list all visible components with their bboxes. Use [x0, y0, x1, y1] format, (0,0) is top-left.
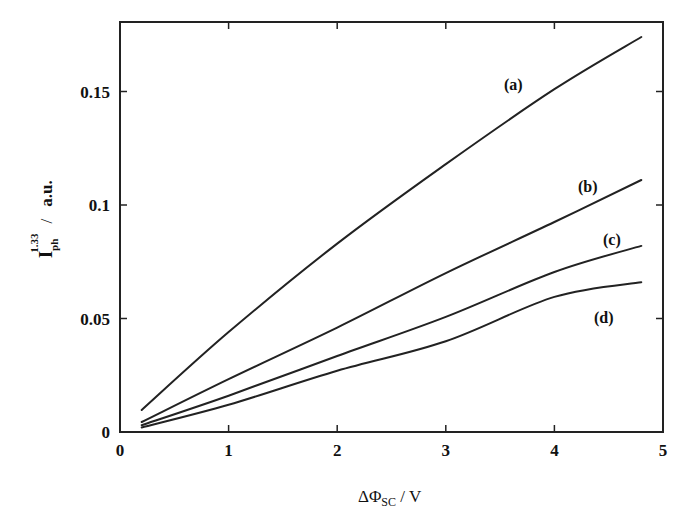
x-axis-title-main: ΔΦ: [358, 487, 381, 506]
y-tick-label: 0.1: [89, 196, 110, 215]
y-axis-title: Iph1.33/a.u.: [28, 180, 60, 258]
curve-b: [142, 180, 642, 422]
y-axis-title-superscript: 1.33: [28, 233, 40, 253]
x-tick-label: 4: [550, 441, 559, 460]
x-tick-label: 2: [333, 441, 342, 460]
y-axis-title-subscript: ph: [48, 239, 60, 251]
series-label-d: (d): [594, 309, 614, 327]
x-tick-label: 3: [442, 441, 451, 460]
curve-d: [142, 282, 642, 427]
series-label-b: (b): [578, 178, 598, 196]
curve-a: [142, 37, 642, 410]
y-tick-label: 0: [102, 423, 111, 442]
x-axis-title-subscript: SC: [381, 495, 396, 509]
y-tick-label: 0.15: [80, 83, 110, 102]
x-tick-label: 0: [116, 441, 125, 460]
y-axis-title-unit: a.u.: [37, 180, 56, 206]
chart: 012345 00.050.10.15 (a) (b) (c) (d) ΔΦSC…: [0, 0, 685, 524]
y-axis-title-slash: /: [37, 218, 56, 223]
y-axis-title-text: Iph1.33/a.u.: [28, 180, 60, 258]
y-tick-label: 0.05: [80, 310, 110, 329]
x-axis-title: ΔΦSC / V: [358, 487, 422, 509]
series-curves: [142, 37, 642, 428]
x-tick-label: 5: [659, 441, 668, 460]
series-label-c: (c): [603, 231, 621, 249]
x-axis-tick-labels: 012345: [116, 441, 668, 460]
x-axis-title-unit: / V: [396, 487, 422, 506]
axis-ticks: [120, 22, 663, 432]
series-label-a: (a): [504, 76, 523, 94]
plot-frame: [120, 22, 663, 432]
y-axis-tick-labels: 00.050.10.15: [80, 83, 110, 443]
curve-c: [142, 246, 642, 425]
x-tick-label: 1: [224, 441, 233, 460]
